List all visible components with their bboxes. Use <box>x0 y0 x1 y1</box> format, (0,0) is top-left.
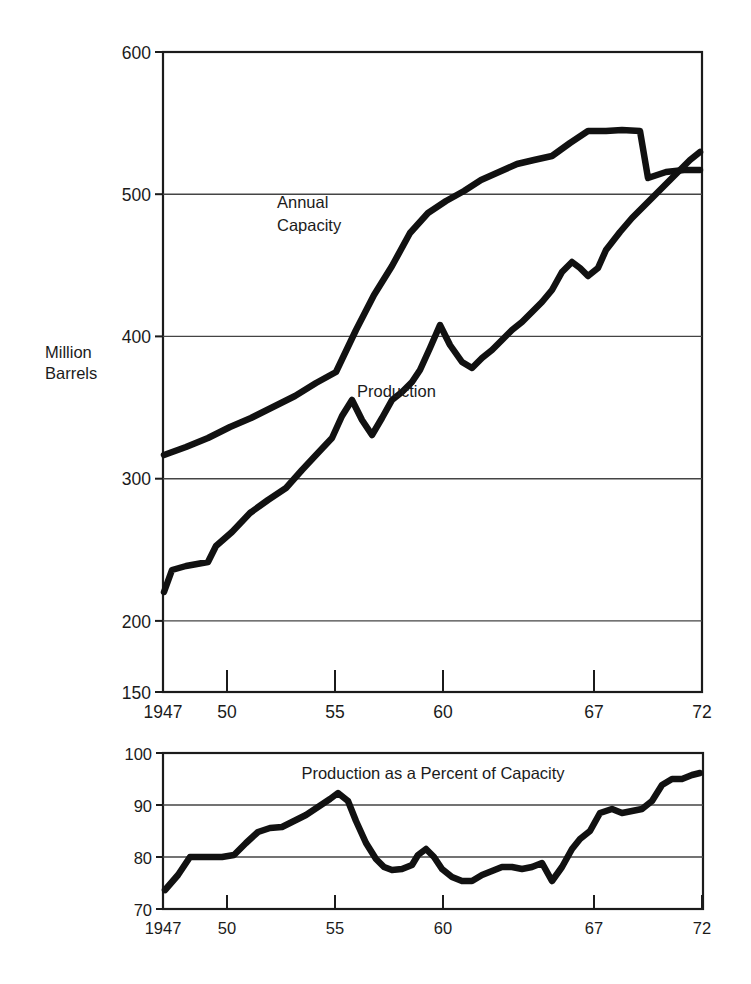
annual-capacity-label-line2: Capacity <box>277 216 342 234</box>
production-line <box>164 152 700 592</box>
main-y-tick-marks <box>155 52 163 692</box>
main-x-tick-55: 55 <box>325 702 344 722</box>
lower-y-tick-80: 80 <box>134 849 152 867</box>
lower-x-tick-marks <box>163 895 702 909</box>
main-chart-figure: 600 500 400 300 200 150 1947 50 55 60 67… <box>0 0 751 735</box>
annual-capacity-line <box>164 130 700 455</box>
annual-capacity-label-line1: Annual <box>277 193 328 211</box>
main-y-tick-500: 500 <box>122 185 151 205</box>
main-y-axis-title-line1: Million <box>45 343 92 361</box>
lower-chart-svg: 100 90 80 70 1947 50 55 60 67 72 Product… <box>0 735 751 984</box>
main-x-tick-67: 67 <box>584 702 603 722</box>
main-x-tick-60: 60 <box>433 702 453 722</box>
lower-x-tick-1947: 1947 <box>145 919 182 937</box>
main-y-tick-600: 600 <box>122 43 151 63</box>
percent-of-capacity-line <box>165 773 700 890</box>
main-plot-frame <box>163 52 702 692</box>
lower-x-tick-60: 60 <box>434 919 452 937</box>
main-gridlines <box>163 194 702 621</box>
main-x-tick-50: 50 <box>217 702 237 722</box>
chart-page: 600 500 400 300 200 150 1947 50 55 60 67… <box>0 0 751 984</box>
main-y-tick-400: 400 <box>122 327 151 347</box>
lower-y-tick-100: 100 <box>124 745 152 763</box>
lower-panel-title: Production as a Percent of Capacity <box>301 764 565 782</box>
lower-x-tick-72: 72 <box>693 919 711 937</box>
main-y-tick-200: 200 <box>122 612 151 632</box>
lower-y-tick-90: 90 <box>134 797 152 815</box>
lower-x-tick-55: 55 <box>326 919 344 937</box>
main-y-tick-300: 300 <box>122 469 151 489</box>
lower-chart-figure: 100 90 80 70 1947 50 55 60 67 72 Product… <box>0 735 751 984</box>
production-label: Production <box>357 382 436 400</box>
main-x-tick-72: 72 <box>692 702 711 722</box>
lower-y-tick-70: 70 <box>134 901 152 919</box>
main-y-tick-150: 150 <box>122 683 151 703</box>
main-chart-svg: 600 500 400 300 200 150 1947 50 55 60 67… <box>0 0 751 735</box>
main-x-tick-1947: 1947 <box>144 702 183 722</box>
main-y-axis-title-line2: Barrels <box>45 364 97 382</box>
lower-x-tick-67: 67 <box>585 919 603 937</box>
lower-x-tick-50: 50 <box>218 919 236 937</box>
main-x-tick-marks <box>163 670 702 692</box>
